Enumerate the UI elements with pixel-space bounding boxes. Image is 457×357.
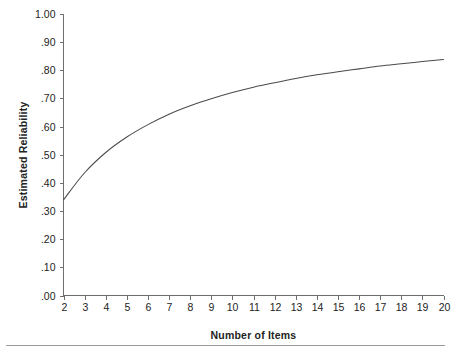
x-tick-label: 4 (104, 301, 110, 313)
y-tick-label: .60 (41, 121, 56, 133)
y-tick-label: .20 (41, 233, 56, 245)
y-tick-label: .50 (41, 149, 56, 161)
x-axis-title: Number of Items (211, 329, 297, 341)
x-tick-label: 11 (249, 301, 260, 313)
y-tick-label: .90 (41, 36, 56, 48)
x-tick-label: 18 (396, 301, 408, 313)
x-tick-label: 12 (270, 301, 282, 313)
x-tick-label: 15 (333, 301, 345, 313)
y-tick-label: .00 (41, 290, 56, 302)
x-tick-label: 2 (62, 301, 68, 313)
x-tick-label: 3 (83, 301, 89, 313)
x-tick-label: 17 (375, 301, 387, 313)
y-tick-label: .40 (41, 177, 56, 189)
y-tick-label: .10 (41, 261, 56, 273)
x-tick-label: 7 (167, 301, 173, 313)
y-axis-title: Estimated Reliability (17, 102, 29, 209)
y-tick-label: .80 (41, 64, 56, 76)
y-tick-label: 1.00 (35, 8, 56, 20)
x-tick-label: 5 (125, 301, 131, 313)
y-tick-label: .70 (41, 92, 56, 104)
x-tick-label: 19 (417, 301, 429, 313)
x-tick-label: 20 (439, 301, 451, 313)
x-tick-label: 13 (291, 301, 303, 313)
y-tick-label: .30 (41, 205, 56, 217)
x-tick-label: 10 (227, 301, 239, 313)
x-tick-label: 6 (146, 301, 152, 313)
x-tick-label: 8 (188, 301, 194, 313)
x-tick-label: 16 (354, 301, 366, 313)
x-tick-label: 9 (209, 301, 215, 313)
chart-figure: 1.00.90.80.70.60.50.40.30.20.10.00 23456… (0, 0, 457, 357)
x-tick-label: 14 (312, 301, 324, 313)
reliability-line-chart: 1.00.90.80.70.60.50.40.30.20.10.00 23456… (0, 0, 457, 357)
